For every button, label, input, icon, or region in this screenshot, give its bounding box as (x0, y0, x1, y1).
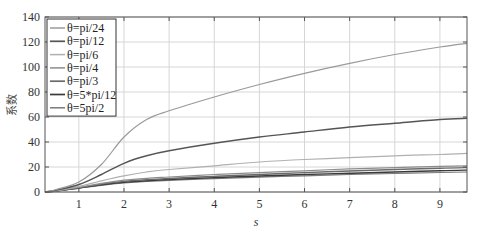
x-tick-label: 8 (392, 197, 398, 211)
legend-item-label: θ=5pi/2 (67, 101, 104, 115)
x-tick-label: 2 (121, 197, 127, 211)
x-tick-label: 7 (347, 197, 353, 211)
x-tick-label: 3 (166, 197, 172, 211)
y-tick-label: 120 (22, 35, 40, 49)
y-axis-label: 系数 (6, 94, 19, 116)
legend-item-label: θ=pi/3 (67, 74, 98, 88)
x-tick-label: 1 (76, 197, 82, 211)
y-tick-label: 0 (34, 185, 40, 199)
y-tick-label: 40 (28, 135, 40, 149)
legend-item-label: θ=pi/12 (67, 34, 104, 48)
legend-item-label: θ=pi/6 (67, 48, 98, 62)
y-tick-label: 140 (22, 10, 40, 24)
legend: θ=pi/24θ=pi/12θ=pi/6θ=pi/4θ=pi/3θ=5*pi/1… (47, 19, 116, 116)
y-tick-label: 20 (28, 160, 40, 174)
y-tick-label: 80 (28, 85, 40, 99)
x-tick-label: 9 (437, 197, 443, 211)
y-tick-label: 100 (22, 60, 40, 74)
x-tick-label: 6 (302, 197, 308, 211)
line-chart: 123456789020406080100120140 s 系数 θ=pi/24… (0, 0, 481, 236)
x-tick-label: 5 (256, 197, 262, 211)
y-tick-label: 60 (28, 110, 40, 124)
legend-item-label: θ=pi/4 (67, 61, 98, 75)
x-tick-label: 4 (211, 197, 217, 211)
legend-item-label: θ=5*pi/12 (67, 88, 116, 102)
x-axis-label: s (254, 215, 259, 229)
legend-item-label: θ=pi/24 (67, 21, 104, 35)
